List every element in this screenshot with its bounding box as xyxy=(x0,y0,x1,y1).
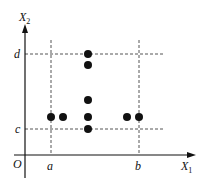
tick-label-d: d xyxy=(14,47,21,61)
scatter-diagram: X2 X1 O a b d c xyxy=(0,0,199,178)
tick-label-a: a xyxy=(47,159,53,173)
data-point xyxy=(84,61,92,69)
tick-label-c: c xyxy=(15,122,21,136)
y-axis-label: X2 xyxy=(18,10,30,26)
data-point xyxy=(84,113,92,121)
x-axis-arrow-icon xyxy=(187,152,196,158)
origin-label: O xyxy=(13,157,22,171)
axes xyxy=(14,24,196,178)
data-point xyxy=(47,113,55,121)
data-point xyxy=(84,96,92,104)
data-point xyxy=(84,125,92,133)
guide-lines xyxy=(25,40,165,155)
data-point xyxy=(59,113,67,121)
data-point xyxy=(123,113,131,121)
data-points xyxy=(47,50,143,133)
data-point xyxy=(135,113,143,121)
x-axis-label: X1 xyxy=(180,159,192,175)
tick-label-b: b xyxy=(135,159,141,173)
data-point xyxy=(84,50,92,58)
